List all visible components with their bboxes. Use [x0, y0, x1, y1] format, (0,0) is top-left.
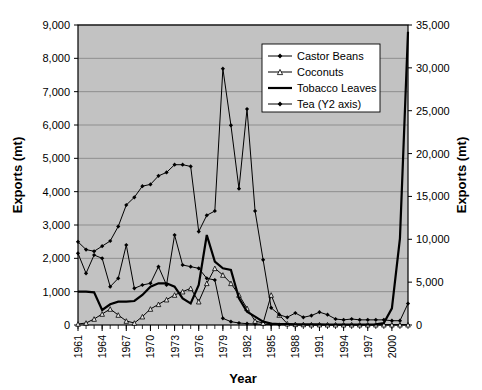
ytick-label-9000: 9,000 [42, 19, 70, 31]
xtick-label-1964: 1964 [96, 335, 108, 359]
legend-label-1: Coconuts [297, 66, 344, 78]
xtick-label-1982: 1982 [241, 335, 253, 359]
xtick-label-1967: 1967 [120, 335, 132, 359]
y2tick-label-35000: 35,000 [416, 19, 450, 31]
legend-label-3: Tea (Y2 axis) [297, 98, 361, 110]
y2tick-label-30000: 30,000 [416, 62, 450, 74]
ytick-label-7000: 7,000 [42, 86, 70, 98]
ytick-label-1000: 1,000 [42, 286, 70, 298]
xtick-label-1961: 1961 [72, 335, 84, 359]
y2-axis-title: Exports (mt) [454, 137, 469, 214]
xtick-label-1985: 1985 [265, 335, 277, 359]
exports-line-chart: 01,0002,0003,0004,0005,0006,0007,0008,00… [0, 0, 482, 390]
y-axis-title: Exports (mt) [10, 137, 25, 214]
ytick-label-8000: 8,000 [42, 52, 70, 64]
xtick-label-1973: 1973 [169, 335, 181, 359]
x-axis-title: Year [229, 371, 256, 386]
ytick-label-4000: 4,000 [42, 186, 70, 198]
ytick-label-6000: 6,000 [42, 119, 70, 131]
xtick-label-1997: 1997 [362, 335, 374, 359]
y2tick-label-20000: 20,000 [416, 148, 450, 160]
legend-label-2: Tobacco Leaves [297, 82, 377, 94]
xtick-label-1970: 1970 [144, 335, 156, 359]
xtick-label-1991: 1991 [313, 335, 325, 359]
y2tick-label-10000: 10,000 [416, 233, 450, 245]
y2tick-label-0: 0 [416, 319, 422, 331]
legend: Castor BeansCoconutsTobacco LeavesTea (Y… [262, 44, 380, 112]
xtick-label-2000: 2000 [386, 335, 398, 359]
ytick-label-2000: 2,000 [42, 252, 70, 264]
y2tick-label-25000: 25,000 [416, 105, 450, 117]
xtick-label-1988: 1988 [289, 335, 301, 359]
y2tick-label-15000: 15,000 [416, 190, 450, 202]
ytick-label-5000: 5,000 [42, 152, 70, 164]
xtick-label-1979: 1979 [217, 335, 229, 359]
ytick-label-0: 0 [64, 319, 70, 331]
chart-canvas: 01,0002,0003,0004,0005,0006,0007,0008,00… [0, 0, 482, 390]
y2tick-label-5000: 5,000 [416, 276, 444, 288]
xtick-label-1976: 1976 [193, 335, 205, 359]
ytick-label-3000: 3,000 [42, 219, 70, 231]
xtick-label-1994: 1994 [338, 335, 350, 359]
legend-label-0: Castor Beans [297, 50, 364, 62]
